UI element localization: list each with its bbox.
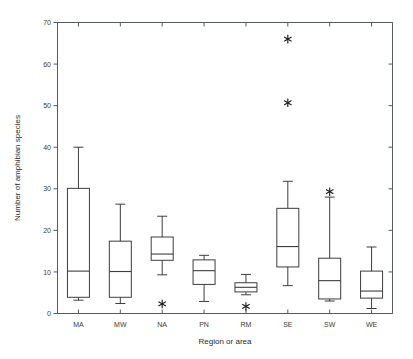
x-axis-title: Region or area bbox=[199, 337, 252, 346]
y-tick-label: 40 bbox=[43, 144, 51, 151]
box-plot-figure: 010203040506070 MAMWNAPNRMSESWWE Region … bbox=[0, 0, 413, 359]
y-tick-label: 60 bbox=[43, 61, 51, 68]
y-tick-label: 20 bbox=[43, 227, 51, 234]
y-axis-title: Number of amphibian species bbox=[13, 115, 22, 221]
x-tick-label-RM: RM bbox=[240, 321, 251, 328]
x-tick-label-PN: PN bbox=[199, 321, 209, 328]
box-group-MW bbox=[109, 204, 131, 303]
x-tick-label-NA: NA bbox=[157, 321, 167, 328]
box-group-SW bbox=[319, 197, 341, 301]
box-group-PN bbox=[193, 255, 215, 301]
y-tick-label: 30 bbox=[43, 185, 51, 192]
box-group-MA bbox=[67, 147, 89, 300]
plot-frame bbox=[58, 23, 393, 314]
outlier-RM-1.7 bbox=[242, 302, 249, 311]
box-MA bbox=[67, 188, 89, 297]
outlier-SW-29.3 bbox=[326, 187, 333, 196]
y-tick-label: 10 bbox=[43, 269, 51, 276]
outliers-group bbox=[158, 35, 333, 311]
box-group-WE bbox=[361, 247, 383, 309]
x-tick-label-MW: MW bbox=[114, 321, 127, 328]
x-tick-label-WE: WE bbox=[366, 321, 378, 328]
box-SW bbox=[319, 258, 341, 299]
box-PN bbox=[193, 260, 215, 285]
box-group-RM bbox=[235, 274, 257, 294]
box-group-SE bbox=[277, 181, 299, 285]
y-tick-label: 0 bbox=[47, 310, 51, 317]
box-group-NA bbox=[151, 216, 173, 275]
x-tick-label-SE: SE bbox=[283, 321, 293, 328]
outlier-NA-2.3 bbox=[158, 300, 165, 309]
x-tick-label-SW: SW bbox=[324, 321, 336, 328]
outlier-SE-66 bbox=[284, 35, 291, 44]
outlier-SE-50.7 bbox=[284, 98, 291, 107]
box-NA bbox=[151, 237, 173, 260]
boxes-group bbox=[67, 147, 382, 308]
x-tick-label-MA: MA bbox=[73, 321, 84, 328]
y-tick-label: 50 bbox=[43, 102, 51, 109]
box-WE bbox=[361, 271, 383, 298]
box-MW bbox=[109, 241, 131, 297]
chart-container: 010203040506070 MAMWNAPNRMSESWWE Region … bbox=[0, 0, 413, 359]
box-SE bbox=[277, 208, 299, 267]
y-tick-label: 70 bbox=[43, 19, 51, 26]
